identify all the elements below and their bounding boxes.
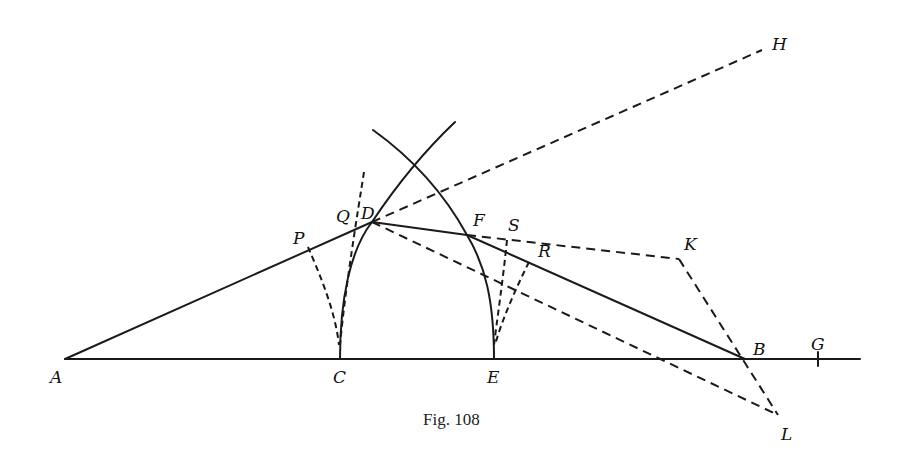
dashed-segment-FK — [467, 235, 679, 259]
label-A: A — [48, 367, 62, 387]
arc-from-C — [340, 122, 455, 359]
geometric-construction-figure: A C E B G P Q D F S R K L H Fig. 108 — [0, 0, 905, 461]
label-L: L — [780, 424, 792, 444]
segment-AD — [65, 222, 372, 359]
arc-from-E — [373, 130, 494, 359]
dashed-arc-PC — [308, 247, 339, 345]
label-C: C — [333, 367, 346, 387]
dashed-ray-DH — [372, 50, 762, 222]
label-E: E — [486, 367, 500, 387]
label-H: H — [771, 34, 788, 54]
figure-caption: Fig. 108 — [423, 410, 480, 429]
label-Q: Q — [336, 206, 350, 226]
label-K: K — [683, 234, 698, 254]
label-R: R — [537, 241, 551, 261]
label-S: S — [508, 215, 520, 235]
label-B: B — [752, 339, 766, 359]
dashed-line-QC — [340, 172, 364, 345]
label-G: G — [811, 334, 825, 354]
label-P: P — [292, 228, 305, 248]
label-F: F — [472, 210, 486, 230]
label-D: D — [360, 203, 375, 223]
dashed-segment-DL — [372, 222, 778, 415]
